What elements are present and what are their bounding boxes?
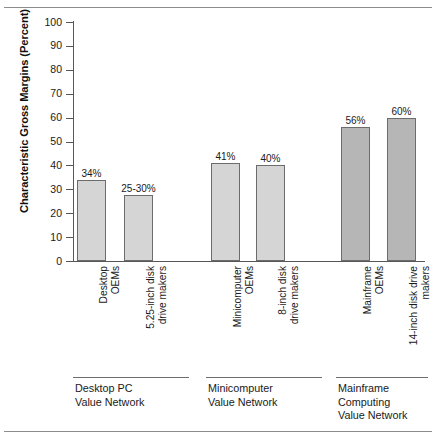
group-underline (73, 377, 189, 378)
y-tick-label: 0 (32, 256, 62, 267)
y-tick-label: 90 (32, 40, 62, 51)
x-category-label: Minicomputer OEMs (232, 266, 255, 374)
y-axis-title: Characteristic Gross Margins (Percent) (18, 0, 30, 236)
bar: 56% (341, 127, 370, 261)
y-tick-mark (66, 142, 73, 143)
chart-figure: Characteristic Gross Margins (Percent) 0… (0, 0, 435, 442)
y-tick-mark (66, 70, 73, 71)
x-category-label: Desktop OEMs (98, 266, 121, 374)
y-tick-mark (66, 22, 73, 23)
bottom-divider-rule (4, 431, 432, 432)
bar-value-label: 56% (345, 115, 365, 126)
bar: 25-30% (124, 195, 153, 261)
y-tick-mark (66, 46, 73, 47)
y-tick-mark (66, 261, 73, 262)
plot-area: 34%25-30%41%40%56%60% (73, 22, 425, 261)
y-tick-label: 10 (32, 232, 62, 243)
bar: 60% (387, 118, 416, 261)
y-tick-mark (66, 118, 73, 119)
bar: 40% (256, 165, 285, 261)
group-caption: Desktop PC Value Network (75, 382, 144, 409)
group-underline (206, 377, 322, 378)
x-category-label: 8-inch disk drive makers (277, 266, 300, 374)
x-category-label: 5.25-inch disk drive makers (145, 266, 168, 374)
bar-value-label: 60% (391, 106, 411, 117)
group-underline (336, 377, 428, 378)
y-tick-label: 80 (32, 64, 62, 75)
x-category-label: Mainframe OEMs (362, 266, 385, 374)
y-tick-label: 100 (32, 17, 62, 28)
y-tick-mark (66, 165, 73, 166)
y-tick-label: 40 (32, 160, 62, 171)
bar: 34% (77, 180, 106, 261)
x-category-label: 14-inch disk drive makers (408, 266, 431, 374)
y-tick-mark (66, 189, 73, 190)
y-tick-label: 70 (32, 88, 62, 99)
group-caption: Mainframe Computing Value Network (338, 382, 407, 423)
y-tick-mark (66, 237, 73, 238)
y-tick-mark (66, 213, 73, 214)
bar: 41% (211, 163, 240, 261)
bar-value-label: 34% (81, 168, 101, 179)
y-tick-label: 20 (32, 208, 62, 219)
bar-value-label: 41% (215, 151, 235, 162)
group-caption: Minicomputer Value Network (208, 382, 277, 409)
y-tick-label: 50 (32, 136, 62, 147)
bar-value-label: 40% (260, 153, 280, 164)
y-tick-label: 60 (32, 112, 62, 123)
y-tick-mark (66, 94, 73, 95)
top-divider-rule (4, 7, 432, 8)
bar-value-label: 25-30% (121, 183, 155, 194)
y-tick-label: 30 (32, 184, 62, 195)
